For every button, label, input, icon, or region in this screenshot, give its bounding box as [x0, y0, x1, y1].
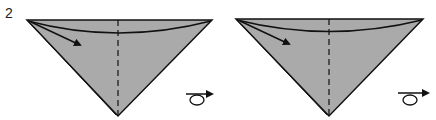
origami-diagram [0, 0, 436, 120]
paper-triangle [27, 20, 212, 116]
fold-panel-left [27, 20, 212, 116]
flip-over-icon [398, 93, 428, 105]
flip-over-icon [186, 94, 212, 105]
fold-panel-right [236, 19, 428, 116]
